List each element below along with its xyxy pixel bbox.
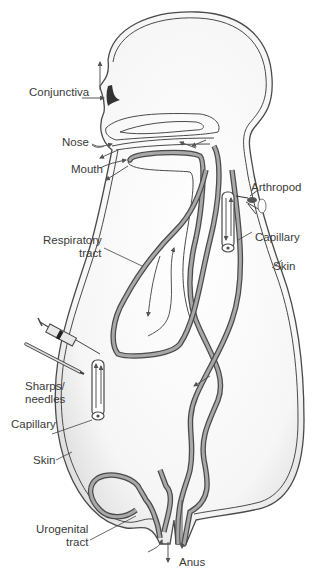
label-arthropod: Arthropod xyxy=(251,181,302,194)
label-conjunctiva: Conjunctiva xyxy=(29,86,89,99)
label-sharps-2: needles xyxy=(25,393,65,406)
label-nose: Nose xyxy=(62,136,89,149)
label-urogenital-2: tract xyxy=(66,536,88,549)
label-capillary-left: Capillary xyxy=(11,418,56,431)
body-outline xyxy=(55,12,304,544)
capillary-left xyxy=(92,360,104,420)
label-respiratory-tract-2: tract xyxy=(79,247,101,260)
capillary-right xyxy=(222,192,234,252)
label-skin-right: Skin xyxy=(273,260,295,273)
label-capillary-right: Capillary xyxy=(255,231,300,244)
label-anus: Anus xyxy=(179,556,205,569)
label-skin-left: Skin xyxy=(33,454,55,467)
label-urogenital-1: Urogenital xyxy=(36,523,88,536)
skin-outer xyxy=(55,12,304,544)
label-respiratory-tract-1: Respiratory xyxy=(43,234,102,247)
label-sharps-1: Sharps/ xyxy=(25,380,65,393)
label-mouth: Mouth xyxy=(71,163,103,176)
